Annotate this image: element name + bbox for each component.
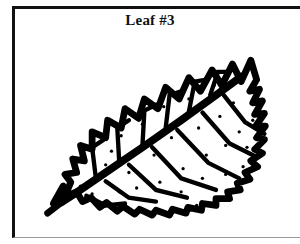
leaf-speckle-dot-21 — [158, 181, 161, 184]
leaf-speckle-dot-22 — [180, 190, 183, 193]
leaf-illustration — [36, 28, 276, 228]
leaf-speckle-dot-4 — [141, 122, 144, 125]
leaf-speckle-dot-7 — [170, 136, 173, 139]
leaf-speckle-dot-27 — [79, 184, 82, 187]
leaf-speckle-dot-23 — [201, 177, 204, 180]
leaf-speckle-dot-1 — [110, 150, 113, 153]
leaf-speckle-dot-9 — [187, 97, 190, 100]
leaf-speckle-dot-18 — [90, 192, 93, 195]
leaf-speckle-dot-28 — [118, 190, 121, 193]
leaf-speckle-dot-3 — [120, 134, 123, 137]
leaf-speckle-dot-15 — [232, 101, 235, 104]
leaf-speckle-dot-8 — [181, 167, 184, 170]
leaf-speckle-dot-14 — [224, 144, 227, 147]
leaf-speckle-dot-5 — [152, 153, 155, 156]
leaf-speckle-dot-26 — [251, 119, 254, 122]
leaf-speckle-dot-13 — [218, 115, 221, 118]
leaf-speckle-dot-10 — [197, 126, 200, 129]
leaf-speckle-dot-29 — [195, 204, 198, 207]
leaf-speckle-dot-6 — [162, 105, 165, 108]
figure-panel: Leaf #3 — [0, 0, 300, 244]
leaf-speckle-dot-2 — [127, 171, 130, 174]
leaf-speckle-dot-24 — [224, 173, 227, 176]
leaf-speckle-dot-17 — [241, 165, 244, 168]
leaf-speckle-dot-11 — [205, 153, 208, 156]
leaf-speckle-dot-19 — [104, 163, 107, 166]
leaf-speckle-dot-0 — [96, 175, 99, 178]
figure-caption: Leaf #3 — [12, 11, 288, 29]
leaf-drawing-group — [48, 60, 266, 215]
leaf-speckle-dot-12 — [212, 84, 215, 87]
leaf-speckle-dot-25 — [245, 146, 248, 149]
leaf-speckle-dot-16 — [238, 130, 241, 133]
leaf-speckle-dot-20 — [135, 186, 138, 189]
